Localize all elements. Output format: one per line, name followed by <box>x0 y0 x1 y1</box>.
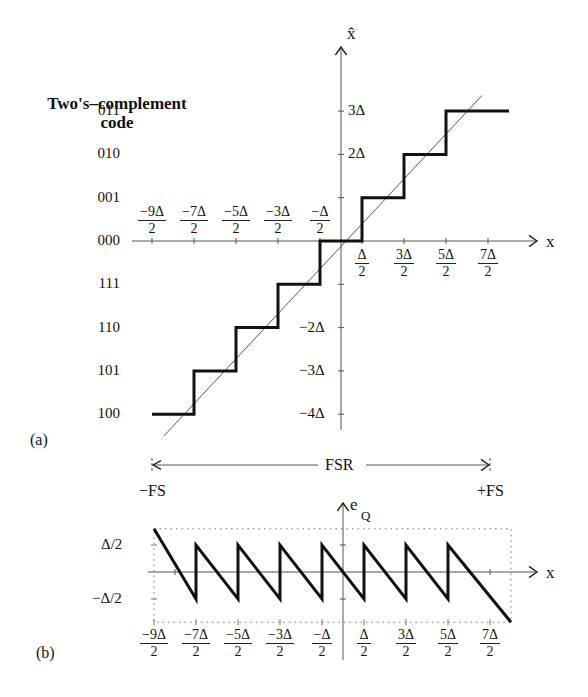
y-tick-label: −4Δ <box>299 406 325 421</box>
fraction-denominator: 2 <box>302 644 342 659</box>
minus-fs-label: −FS <box>139 483 166 498</box>
fraction-numerator: Δ <box>355 248 368 264</box>
fraction-numerator: −5Δ <box>222 205 250 221</box>
fsr-label: FSR <box>325 457 353 472</box>
code-label-001: 001 <box>80 190 120 205</box>
b-y-tick-label: −Δ/2 <box>92 591 122 606</box>
x-tick-label-top: −5Δ2 <box>216 205 256 236</box>
fraction-numerator: Δ <box>357 628 370 644</box>
fraction-denominator: 2 <box>386 644 426 659</box>
b-x-tick-label: 5Δ2 <box>428 628 468 659</box>
fraction-denominator: 2 <box>260 644 300 659</box>
fraction-numerator: −7Δ <box>182 628 210 644</box>
code-label-011: 011 <box>80 103 120 118</box>
b-y-axis-subscript: Q <box>361 508 370 523</box>
fraction-denominator: 2 <box>132 221 172 236</box>
fraction-numerator: 7Δ <box>480 628 500 644</box>
code-label-000: 000 <box>80 233 120 248</box>
y-tick-label: −2Δ <box>299 320 325 335</box>
x-tick-label-bottom: 5Δ2 <box>426 248 466 279</box>
fraction-numerator: −3Δ <box>266 628 294 644</box>
fraction-denominator: 2 <box>470 644 510 659</box>
code-label-101: 101 <box>80 363 120 378</box>
fraction-denominator: 2 <box>342 264 382 279</box>
fraction-denominator: 2 <box>344 644 384 659</box>
x-tick-label-top: −Δ2 <box>300 205 340 236</box>
fraction-numerator: −9Δ <box>138 205 166 221</box>
fraction-denominator: 2 <box>176 644 216 659</box>
fraction-numerator: 5Δ <box>438 628 458 644</box>
b-y-axis-label: e <box>350 497 358 512</box>
fraction-denominator: 2 <box>384 264 424 279</box>
fraction-denominator: 2 <box>258 221 298 236</box>
fraction-denominator: 2 <box>468 264 508 279</box>
b-x-tick-label: 7Δ2 <box>470 628 510 659</box>
fraction-denominator: 2 <box>428 644 468 659</box>
plus-fs-label: +FS <box>477 483 504 498</box>
fraction-denominator: 2 <box>174 221 214 236</box>
x-tick-label-top: −3Δ2 <box>258 205 298 236</box>
x-tick-label-top: −9Δ2 <box>132 205 172 236</box>
code-label-111: 111 <box>80 276 120 291</box>
x-tick-label-top: −7Δ2 <box>174 205 214 236</box>
y-axis-label: x̂ <box>347 26 356 41</box>
fraction-numerator: −5Δ <box>224 628 252 644</box>
panel-a-label: (a) <box>30 432 48 447</box>
b-x-axis-label: x <box>546 565 555 580</box>
panel-b-label: (b) <box>36 645 55 660</box>
fraction-numerator: −Δ <box>312 628 333 644</box>
fraction-denominator: 2 <box>300 221 340 236</box>
b-x-tick-label: −9Δ2 <box>134 628 174 659</box>
b-x-tick-label: −5Δ2 <box>218 628 258 659</box>
code-label-110: 110 <box>80 320 120 335</box>
quantization-error-sawtooth <box>154 529 511 622</box>
fraction-numerator: 3Δ <box>394 248 414 264</box>
fraction-numerator: −Δ <box>310 205 331 221</box>
x-tick-label-bottom: 7Δ2 <box>468 248 508 279</box>
fraction-numerator: 5Δ <box>436 248 456 264</box>
fraction-numerator: −3Δ <box>264 205 292 221</box>
x-axis-label: x <box>546 234 555 249</box>
b-x-tick-label: Δ2 <box>344 628 384 659</box>
fraction-numerator: −9Δ <box>140 628 168 644</box>
fraction-denominator: 2 <box>218 644 258 659</box>
b-x-tick-label: −3Δ2 <box>260 628 300 659</box>
fraction-numerator: 7Δ <box>478 248 498 264</box>
error-bound-box <box>154 529 511 622</box>
fraction-numerator: −7Δ <box>180 205 208 221</box>
x-tick-label-bottom: 3Δ2 <box>384 248 424 279</box>
fraction-denominator: 2 <box>426 264 466 279</box>
y-tick-label: 3Δ <box>348 103 365 118</box>
code-label-010: 010 <box>80 146 120 161</box>
fraction-denominator: 2 <box>216 221 256 236</box>
x-tick-label-bottom: Δ2 <box>342 248 382 279</box>
fraction-numerator: 3Δ <box>396 628 416 644</box>
b-x-tick-label: −Δ2 <box>302 628 342 659</box>
b-x-tick-label: 3Δ2 <box>386 628 426 659</box>
y-tick-label: −3Δ <box>299 363 325 378</box>
y-tick-label: 2Δ <box>348 146 365 161</box>
b-y-tick-label: Δ/2 <box>101 537 122 552</box>
code-label-100: 100 <box>80 406 120 421</box>
fraction-denominator: 2 <box>134 644 174 659</box>
b-x-tick-label: −7Δ2 <box>176 628 216 659</box>
